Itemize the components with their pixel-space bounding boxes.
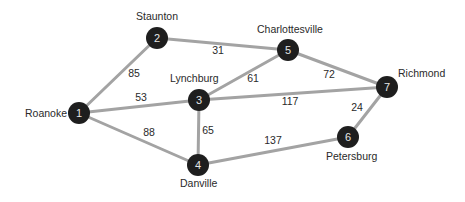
edge-weights: 85 53 88 31 61 65 117 72 24 137 [128,44,363,146]
city-label-petersburg: Petersburg [326,150,378,162]
node-number: 6 [345,131,351,143]
node-number: 3 [196,94,202,106]
weight-lynchburg-charlottesville: 61 [247,72,259,84]
node-richmond: 7 Richmond [376,67,445,98]
city-label-lynchburg: Lynchburg [170,72,219,84]
edge-roanoke-danville [79,113,198,165]
city-label-danville: Danville [180,177,218,189]
node-number: 1 [76,107,82,119]
node-number: 5 [285,44,291,56]
node-number: 4 [195,159,201,171]
weight-staunton-charlottesville: 31 [212,44,224,56]
weight-richmond-petersburg: 24 [351,101,363,113]
weight-roanoke-staunton: 85 [128,67,140,79]
node-staunton: 2 Staunton [136,10,178,49]
edges [79,38,387,165]
weight-roanoke-lynchburg: 53 [135,91,147,103]
city-label-charlottesville: Charlottesville [257,23,323,35]
city-label-staunton: Staunton [136,10,178,22]
weight-danville-petersburg: 137 [264,134,282,146]
node-roanoke: 1 Roanoke [25,102,90,124]
node-petersburg: 6 Petersburg [326,126,378,162]
weight-charlottesville-richmond: 72 [323,68,335,80]
node-number: 2 [154,32,160,44]
weight-lynchburg-richmond: 117 [282,95,299,107]
weight-roanoke-danville: 88 [143,126,155,138]
city-label-roanoke: Roanoke [25,107,67,119]
weight-lynchburg-danville: 65 [202,124,214,136]
node-charlottesville: 5 Charlottesville [257,23,323,61]
node-number: 7 [384,81,390,93]
edge-charlottesville-richmond [288,50,387,87]
road-network-graph: 85 53 88 31 61 65 117 72 24 137 1 Roanok… [0,0,465,202]
city-label-richmond: Richmond [398,67,445,79]
